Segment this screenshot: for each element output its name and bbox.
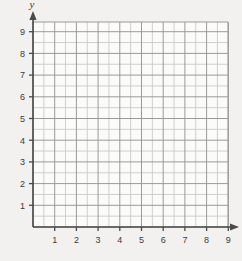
y-tick-label: 4 bbox=[20, 136, 25, 146]
x-tick-label: 1 bbox=[52, 235, 57, 245]
x-tick-label: 3 bbox=[96, 235, 101, 245]
y-tick-label: 6 bbox=[20, 92, 25, 102]
coordinate-plane: 123456789123456789 x y bbox=[0, 0, 242, 261]
x-tick-label: 5 bbox=[139, 235, 144, 245]
y-axis-label: y bbox=[29, 0, 35, 10]
y-tick-label: 7 bbox=[20, 70, 25, 80]
y-tick-label: 5 bbox=[20, 114, 25, 124]
x-tick-label: 2 bbox=[74, 235, 79, 245]
y-tick-label: 3 bbox=[20, 157, 25, 167]
x-tick-label: 4 bbox=[117, 235, 122, 245]
x-axis-arrowhead bbox=[230, 223, 239, 230]
y-tick-label: 1 bbox=[20, 201, 25, 211]
y-axis-arrowhead bbox=[29, 11, 36, 20]
y-tick-label: 8 bbox=[20, 49, 25, 59]
y-tick-label: 2 bbox=[20, 179, 25, 189]
coordinate-grid-svg: 123456789123456789 x y bbox=[0, 0, 242, 261]
x-tick-label: 6 bbox=[161, 235, 166, 245]
x-tick-label: 8 bbox=[204, 235, 209, 245]
x-tick-label: 7 bbox=[182, 235, 187, 245]
x-tick-label: 9 bbox=[226, 235, 231, 245]
y-tick-label: 9 bbox=[20, 27, 25, 37]
